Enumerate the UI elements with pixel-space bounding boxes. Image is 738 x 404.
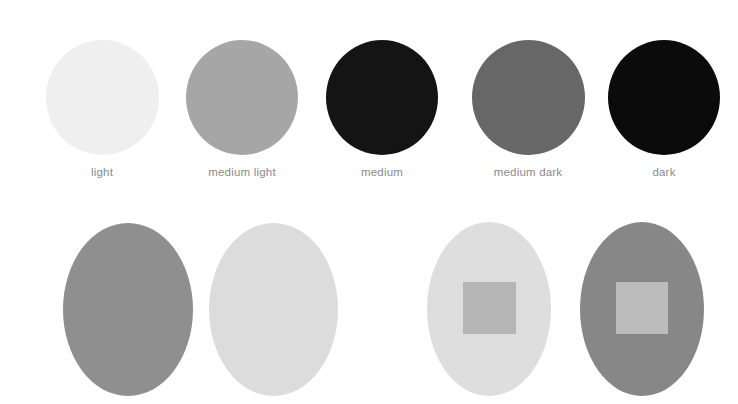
- inner-square-on-light: [463, 282, 516, 334]
- swatch-label-dark: dark: [594, 166, 734, 178]
- swatch-label-light: light: [32, 166, 172, 178]
- swatch-medium-light: [186, 40, 298, 155]
- swatch-medium: [326, 40, 438, 155]
- oval-medium: [63, 223, 193, 396]
- inner-square-on-dark: [616, 282, 668, 334]
- swatch-label-medium-light: medium light: [172, 166, 312, 178]
- swatch-medium-dark: [472, 40, 585, 155]
- oval-light: [209, 223, 338, 396]
- swatch-label-medium-dark: medium dark: [458, 166, 598, 178]
- swatch-dark: [608, 40, 720, 155]
- swatch-label-medium: medium: [312, 166, 452, 178]
- swatch-light: [46, 40, 159, 155]
